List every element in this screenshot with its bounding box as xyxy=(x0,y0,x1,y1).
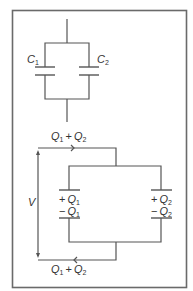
bottom-bus-wire xyxy=(45,75,89,99)
inner-top-wire xyxy=(69,166,161,190)
parallel-capacitor-circuit: C1 C2 xyxy=(27,19,109,122)
left-cap-minus-charge: −Q1 xyxy=(59,205,80,218)
top-supply-wire xyxy=(38,148,116,166)
c1-label: C1 xyxy=(27,53,39,66)
inner-bottom-wire xyxy=(69,218,161,242)
voltage-arrow-up-icon xyxy=(36,150,40,155)
top-bus-wire xyxy=(45,43,89,67)
top-current-label: Q1+Q2 xyxy=(51,130,86,143)
charge-distribution-circuit: Q1+Q2 +Q1 −Q1 +Q2 −Q2 V Q1+Q2 xyxy=(28,130,172,276)
circuit-diagram: C1 C2 Q1+Q2 +Q1 −Q1 +Q2 −Q2 V Q1+Q2 xyxy=(0,0,193,291)
c2-label: C2 xyxy=(97,53,109,66)
bottom-current-label: Q1+Q2 xyxy=(51,263,86,276)
right-cap-minus-charge: −Q2 xyxy=(151,205,172,218)
voltage-label: V xyxy=(28,196,37,208)
voltage-arrow-down-icon xyxy=(36,253,40,258)
